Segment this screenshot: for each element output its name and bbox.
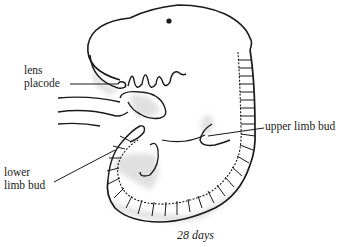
lens-placode-label-line1: lens [24, 64, 60, 77]
abdomen-outline [162, 135, 205, 142]
lower-limb-bud-leader [54, 150, 115, 182]
diagram-caption: 28 days [177, 228, 214, 243]
lower-limb-bud-label-line2: limb bud [4, 179, 45, 192]
upper-limb-bud-label: upper limb bud [265, 120, 335, 133]
lens-placode-label-line2: placode [24, 77, 60, 90]
umbilical-lines [58, 97, 128, 126]
lower-limb-bud-label-line1: lower [4, 166, 45, 179]
head-outline [88, 5, 252, 80]
lens-placode-label: lens placode [24, 64, 60, 90]
pharyngeal-arches [128, 72, 186, 87]
lower-limb-bud-label: lower limb bud [4, 166, 45, 192]
eye-dot [166, 18, 171, 23]
